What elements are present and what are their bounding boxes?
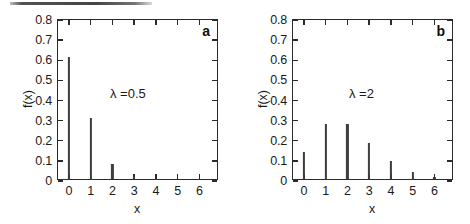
y-tick-1-3 [293,120,298,121]
stem-1-x1 [325,124,327,179]
y-tick-0-4 [58,100,63,101]
y-tick-label-0-0: 0 [45,174,52,188]
x-tick-0-5 [177,174,178,179]
plot-frame-b: 00.10.20.30.40.50.60.70.80123456 λ =2 b [292,19,453,180]
y-tick-label-0-8: 0.8 [35,13,52,27]
y-tick-1-5 [293,80,298,81]
y-tick-label-1-6: 0.6 [270,53,287,67]
x-tick-top-0-4 [155,20,156,25]
y-tick-right-0-8 [212,19,217,20]
y-tick-right-1-7 [447,39,452,40]
y-tick-0-6 [58,60,63,61]
stem-1-x2 [346,124,348,179]
y-tick-label-0-6: 0.6 [35,53,52,67]
y-tick-label-1-2: 0.2 [270,134,287,148]
panel-b: f(x) x 00.10.20.30.40.50.60.70.80123456 … [235,0,470,224]
y-tick-0-7 [58,39,63,40]
stem-0-x2 [111,164,113,179]
y-tick-label-1-4: 0.4 [270,94,287,108]
x-tick-0-6 [199,174,200,179]
stem-0-x0 [68,57,70,179]
x-tick-label-0-0: 0 [65,184,72,198]
x-tick-label-0-6: 6 [196,184,203,198]
y-tick-right-0-4 [212,100,217,101]
y-tick-label-1-0: 0 [280,174,287,188]
y-tick-0-5 [58,80,63,81]
x-tick-top-1-0 [303,20,304,25]
stem-1-x5 [412,172,414,179]
y-tick-label-1-8: 0.8 [270,13,287,27]
y-tick-right-1-6 [447,60,452,61]
x-tick-top-1-2 [347,20,348,25]
panel-a: f(x) x 00.10.20.30.40.50.60.70.80123456 … [0,0,235,224]
y-tick-1-6 [293,60,298,61]
plot-frame-a: 00.10.20.30.40.50.60.70.80123456 λ =0.5 … [57,19,218,180]
x-tick-top-0-5 [177,20,178,25]
stem-1-x3 [368,143,370,179]
y-tick-1-2 [293,140,298,141]
stem-0-x1 [90,118,92,179]
y-tick-right-1-5 [447,80,452,81]
y-tick-0-8 [58,19,63,20]
y-tick-0-0 [58,180,63,181]
x-tick-top-1-5 [412,20,413,25]
x-tick-top-1-4 [390,20,391,25]
y-tick-label-1-3: 0.3 [270,114,287,128]
lambda-annotation-a: λ =0.5 [110,86,146,101]
y-tick-right-0-2 [212,140,217,141]
y-tick-1-1 [293,160,298,161]
x-tick-label-1-5: 5 [409,184,416,198]
y-tick-right-1-8 [447,19,452,20]
lambda-annotation-b: λ =2 [349,86,374,101]
y-axis-title-b: f(x) [256,90,270,108]
x-tick-label-1-3: 3 [366,184,373,198]
x-axis-title-b: x [369,202,375,216]
y-tick-label-0-3: 0.3 [35,114,52,128]
x-tick-top-0-1 [90,20,91,25]
panel-letter-b: b [436,23,445,39]
y-tick-0-3 [58,120,63,121]
y-tick-label-1-1: 0.1 [270,154,287,168]
stem-1-x4 [390,161,392,179]
poisson-pmf-figure: f(x) x 00.10.20.30.40.50.60.70.80123456 … [0,0,470,224]
x-tick-label-0-3: 3 [131,184,138,198]
y-tick-1-7 [293,39,298,40]
x-tick-label-0-2: 2 [109,184,116,198]
x-tick-label-0-5: 5 [174,184,181,198]
x-axis-title-a: x [134,202,140,216]
x-tick-label-1-6: 6 [431,184,438,198]
x-tick-top-0-2 [112,20,113,25]
y-tick-right-1-0 [447,180,452,181]
x-tick-top-0-6 [199,20,200,25]
y-tick-right-0-6 [212,60,217,61]
y-tick-right-1-3 [447,120,452,121]
stem-0-x3 [133,176,135,179]
stem-1-x0 [303,152,305,179]
y-tick-0-1 [58,160,63,161]
y-tick-right-1-1 [447,160,452,161]
y-tick-label-0-5: 0.5 [35,73,52,87]
y-tick-right-1-4 [447,100,452,101]
y-tick-1-4 [293,100,298,101]
x-tick-label-1-2: 2 [344,184,351,198]
y-tick-label-0-4: 0.4 [35,94,52,108]
y-tick-right-0-1 [212,160,217,161]
y-tick-1-8 [293,19,298,20]
y-axis-title-a: f(x) [21,90,35,108]
x-tick-top-1-3 [368,20,369,25]
stem-1-x6 [433,177,435,179]
y-tick-right-0-5 [212,80,217,81]
panel-letter-a: a [202,23,210,39]
x-tick-label-1-4: 4 [387,184,394,198]
y-tick-right-1-2 [447,140,452,141]
x-tick-label-1-1: 1 [322,184,329,198]
y-tick-right-0-0 [212,180,217,181]
y-tick-label-0-7: 0.7 [35,33,52,47]
y-tick-1-0 [293,180,298,181]
x-tick-top-1-6 [434,20,435,25]
y-tick-right-0-7 [212,39,217,40]
x-tick-label-0-1: 1 [87,184,94,198]
y-tick-0-2 [58,140,63,141]
y-tick-label-0-2: 0.2 [35,134,52,148]
x-tick-top-0-3 [133,20,134,25]
